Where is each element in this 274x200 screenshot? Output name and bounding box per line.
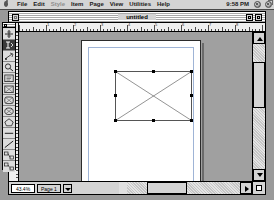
scroll-down-button[interactable] — [253, 169, 265, 181]
resize-handle-w[interactable] — [114, 94, 117, 97]
ruler-tick — [16, 42, 18, 43]
ruler-tick — [56, 29, 57, 31]
document-canvas[interactable] — [19, 32, 252, 181]
ruler-tick — [171, 29, 172, 31]
ruler-label: 4 — [128, 23, 130, 27]
menu-view[interactable]: View — [107, 0, 127, 9]
tools-palette[interactable] — [2, 22, 16, 170]
horizontal-scroll-thumb[interactable] — [147, 182, 187, 194]
resize-handle-se[interactable] — [190, 119, 193, 122]
ruler-tick — [16, 69, 18, 70]
resize-handle-e[interactable] — [190, 94, 193, 97]
ruler-tick — [16, 177, 18, 178]
ruler-tick — [252, 29, 253, 31]
polygon-picture-box-tool[interactable] — [3, 117, 15, 128]
ruler-tick — [103, 29, 104, 31]
link-chain-icon — [4, 151, 14, 160]
menu-edit[interactable]: Edit — [30, 0, 47, 9]
rectangle-picture-box-icon — [4, 85, 14, 94]
ruler-tick — [16, 110, 18, 111]
tools-palette-close-box[interactable] — [4, 24, 7, 27]
ruler-tick — [195, 27, 196, 31]
ruler-tick — [49, 29, 50, 31]
ruler-tick — [242, 29, 243, 31]
menu-page[interactable]: Page — [86, 0, 106, 9]
menu-style[interactable]: Style — [48, 0, 68, 9]
ruler-tick — [16, 174, 18, 175]
resize-handle-ne[interactable] — [190, 70, 193, 73]
line-tool[interactable] — [3, 139, 15, 150]
window-resize-grow-box[interactable] — [252, 181, 265, 194]
content-tool[interactable] — [3, 40, 15, 51]
ruler-tick — [66, 29, 67, 31]
zoom-tool[interactable] — [3, 62, 15, 73]
ruler-tick — [16, 123, 18, 124]
scroll-up-button[interactable] — [253, 32, 265, 44]
app-switcher-icon[interactable] — [253, 0, 262, 9]
orthogonal-line-tool[interactable] — [3, 128, 15, 139]
item-tool[interactable] — [3, 29, 15, 40]
rounded-picture-box-tool[interactable] — [3, 95, 15, 106]
oval-picture-box-tool[interactable] — [3, 106, 15, 117]
vertical-scroll-thumb[interactable] — [253, 62, 265, 108]
unlinking-tool[interactable] — [3, 161, 15, 172]
resize-handle-nw[interactable] — [114, 70, 117, 73]
ruler-tick — [215, 29, 216, 31]
ruler-tick — [26, 29, 27, 31]
linking-tool[interactable] — [3, 150, 15, 161]
rectangle-picture-box-tool[interactable] — [3, 84, 15, 95]
zoom-box[interactable] — [246, 14, 253, 21]
vertical-scrollbar[interactable] — [252, 32, 265, 181]
selected-picture-box[interactable] — [115, 71, 192, 121]
ruler-tick — [63, 29, 64, 31]
ruler-tick — [16, 133, 18, 134]
ruler-tick — [262, 25, 263, 31]
ruler-tick — [90, 29, 91, 31]
document-page[interactable] — [81, 40, 201, 181]
resize-handle-n[interactable] — [152, 70, 155, 73]
horizontal-ruler[interactable]: 12345678 — [19, 23, 265, 32]
ruler-tick — [124, 29, 125, 31]
ruler-tick — [22, 29, 23, 31]
ruler-tick — [218, 29, 219, 31]
text-box-tool[interactable] — [3, 73, 15, 84]
ruler-tick — [16, 130, 18, 131]
menu-bar: File Edit Style Item Page View Utilities… — [0, 0, 274, 10]
collapse-box[interactable] — [255, 14, 262, 21]
ruler-tick — [174, 29, 175, 31]
ruler-tick — [16, 35, 18, 36]
window-title-bar[interactable]: untitled — [9, 12, 265, 23]
ruler-tick — [107, 29, 108, 31]
page-nav-popup[interactable] — [63, 184, 72, 193]
menu-utilities[interactable]: Utilities — [126, 0, 154, 9]
ruler-tick — [16, 143, 18, 144]
page-shadow-right — [202, 43, 204, 181]
rotation-tool[interactable] — [3, 51, 15, 62]
ruler-tick — [16, 66, 18, 67]
zoom-percent-field[interactable]: 43.4% — [11, 184, 35, 193]
ruler-tick — [211, 29, 212, 31]
apple-menu-icon[interactable] — [2, 0, 11, 9]
menu-help[interactable]: Help — [154, 0, 173, 9]
item-tool-icon — [4, 30, 14, 39]
ruler-tick — [141, 27, 142, 31]
ruler-tick — [16, 62, 18, 63]
tools-palette-title-bar[interactable] — [3, 23, 15, 28]
menu-clock[interactable]: 9:58 PM — [223, 0, 252, 9]
ruler-tick — [16, 147, 18, 148]
ruler-tick — [16, 164, 18, 165]
menu-file[interactable]: File — [14, 0, 30, 9]
page-number-label[interactable]: Page 1 — [37, 184, 61, 193]
magnifier-icon — [4, 63, 14, 72]
ruler-tick — [191, 29, 192, 31]
ruler-tick — [33, 27, 34, 31]
resize-handle-sw[interactable] — [114, 119, 117, 122]
close-box[interactable] — [12, 14, 19, 21]
content-tool-icon — [4, 41, 14, 50]
resize-handle-s[interactable] — [152, 119, 155, 122]
scroll-right-button[interactable] — [240, 182, 252, 194]
ruler-tick — [137, 29, 138, 31]
rounded-picture-box-icon — [4, 96, 14, 105]
ruler-tick — [259, 29, 260, 31]
menu-item[interactable]: Item — [68, 0, 86, 9]
